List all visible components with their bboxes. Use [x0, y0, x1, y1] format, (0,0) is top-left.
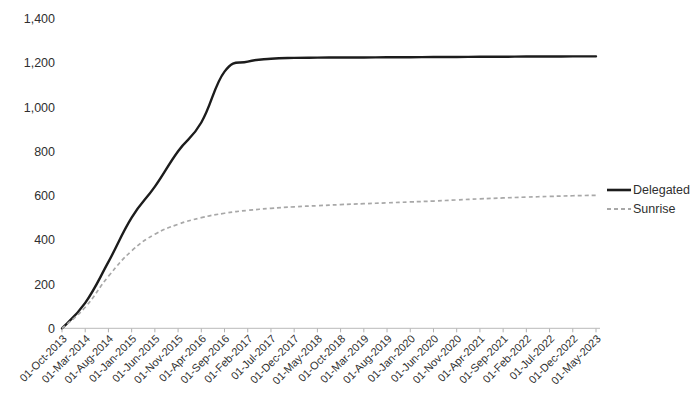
- x-axis-tick-marks: [62, 328, 596, 332]
- series-line-sunrise: [62, 195, 596, 328]
- series-line-delegated: [62, 56, 596, 328]
- y-axis-tick-label: 400: [34, 233, 55, 247]
- y-axis-tick-label: 1,400: [24, 12, 55, 26]
- line-chart: 02004006008001,0001,2001,400 01-Oct-2013…: [0, 0, 691, 406]
- chart-canvas: 02004006008001,0001,2001,400 01-Oct-2013…: [0, 0, 691, 406]
- y-axis-tick-label: 1,200: [24, 56, 55, 70]
- y-axis-tick-label: 1,000: [24, 101, 55, 115]
- x-axis-tick-labels: 01-Oct-201301-Mar-201401-Aug-201401-Jan-…: [17, 332, 603, 386]
- y-axis-tick-label: 200: [34, 278, 55, 292]
- y-axis-tick-label: 600: [34, 189, 55, 203]
- legend-label-delegated: Delegated: [633, 183, 690, 197]
- legend-label-sunrise: Sunrise: [633, 202, 675, 216]
- series-plot-area: [62, 56, 596, 328]
- chart-legend: DelegatedSunrise: [607, 183, 690, 216]
- y-axis-tick-label: 800: [34, 145, 55, 159]
- y-axis-tick-labels: 02004006008001,0001,2001,400: [24, 12, 55, 336]
- y-axis-tick-label: 0: [48, 322, 55, 336]
